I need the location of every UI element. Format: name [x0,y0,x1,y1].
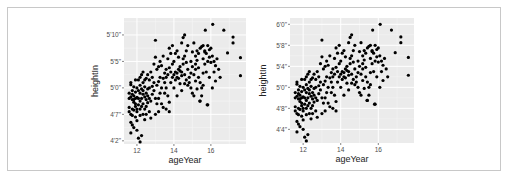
data-point [188,76,191,79]
data-point [231,35,234,38]
data-point [166,73,169,76]
data-point [300,101,303,104]
data-point [324,96,327,99]
data-point [308,80,311,83]
data-point [195,87,198,90]
data-point [211,86,214,89]
data-point [140,97,143,100]
data-point [330,71,333,74]
plot-panel [290,18,414,143]
data-point [359,41,362,44]
data-point [155,102,158,105]
data-point [163,92,166,95]
data-point [327,64,330,67]
data-point [320,96,323,99]
data-point [177,56,180,59]
data-point [206,44,209,47]
data-point [165,76,168,79]
data-point [137,89,140,92]
x-tick-label: 14 [170,147,178,154]
data-point [128,106,131,109]
data-point [168,110,171,113]
data-point [303,96,306,99]
data-point [375,75,378,78]
data-point [399,41,402,44]
data-point [183,73,186,76]
data-point [172,86,175,89]
data-point [154,97,157,100]
data-point [324,65,327,68]
data-point [226,51,229,54]
data-point [168,47,171,50]
data-point [145,98,148,101]
data-point [314,96,317,99]
y-tick-label: 6'0" [276,21,287,28]
data-point [203,62,206,65]
data-point [140,134,143,137]
data-point [195,59,198,62]
data-point [151,93,154,96]
data-point [336,70,339,73]
data-point [298,108,301,111]
data-point [160,86,163,89]
data-point [314,109,317,112]
data-point [171,44,174,47]
data-point [186,44,189,47]
data-point [339,59,342,62]
data-point [146,73,149,76]
data-point [178,69,181,72]
data-point [350,82,353,85]
y-tick-label: 5'4" [276,63,287,70]
data-point [359,73,362,76]
data-point [152,62,155,65]
data-point [327,86,330,89]
data-point [378,54,381,57]
data-point [334,66,337,69]
data-point [168,66,171,69]
x-tick-label: 14 [337,146,345,153]
data-point [361,67,364,70]
data-point [328,54,331,57]
data-point [145,105,148,108]
data-point [162,55,165,58]
data-point [345,65,348,68]
data-point [145,113,148,116]
data-point [303,136,306,139]
data-point [345,69,348,72]
data-point [194,55,197,58]
data-point [358,65,361,68]
x-tick-label: 12 [133,147,141,154]
data-point [407,56,410,59]
data-point [178,82,181,85]
data-point [295,95,298,98]
data-point [138,92,141,95]
data-point [374,44,377,47]
y-axis-title: heightIn [90,65,100,97]
data-point [336,52,339,55]
data-point [328,105,331,108]
data-point [308,88,311,91]
data-point [146,101,149,104]
data-point [138,84,141,87]
data-point [134,97,137,100]
data-point [302,107,305,110]
data-point [209,47,212,50]
data-point [155,84,158,87]
data-point [394,51,397,54]
data-point [211,23,214,26]
data-point [350,54,353,57]
data-point [132,126,135,129]
data-point [356,71,359,74]
data-point [322,83,325,86]
data-point [308,112,311,115]
data-point [183,33,186,36]
data-point [149,116,152,119]
data-point [239,56,242,59]
data-point [177,77,180,80]
data-point [325,91,328,94]
data-point [134,78,137,81]
data-point [378,86,381,89]
data-point [373,103,376,106]
data-point [319,88,322,91]
data-point [160,64,163,67]
